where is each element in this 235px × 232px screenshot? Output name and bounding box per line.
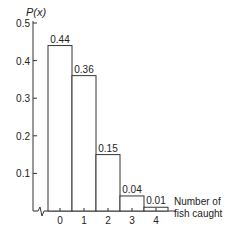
y-tick-label: 0.3: [16, 93, 30, 104]
x-tick-label: 0: [57, 215, 63, 226]
y-tick-label: 0.2: [16, 131, 30, 142]
y-axis-label: P(x): [26, 6, 47, 18]
bar: [48, 46, 72, 211]
probability-histogram: P(x)0.10.20.30.40.50.4400.3610.1520.0430…: [0, 0, 235, 232]
bar-value-label: 0.44: [50, 34, 70, 45]
y-tick-label: 0.4: [16, 56, 30, 67]
bar: [72, 76, 96, 211]
x-tick-label: 4: [153, 215, 159, 226]
bar-value-label: 0.36: [74, 64, 94, 75]
x-tick-label: 1: [81, 215, 87, 226]
bar-value-label: 0.04: [122, 184, 142, 195]
x-axis-label: Number of: [174, 196, 221, 207]
y-tick-label: 0.5: [16, 18, 30, 29]
y-tick-label: 0.1: [16, 168, 30, 179]
x-tick-label: 2: [105, 215, 111, 226]
bar-value-label: 0.01: [146, 195, 166, 206]
bar: [96, 155, 120, 211]
bar-value-label: 0.15: [98, 143, 118, 154]
x-tick-label: 3: [129, 215, 135, 226]
x-axis-label: fish caught: [174, 208, 223, 219]
